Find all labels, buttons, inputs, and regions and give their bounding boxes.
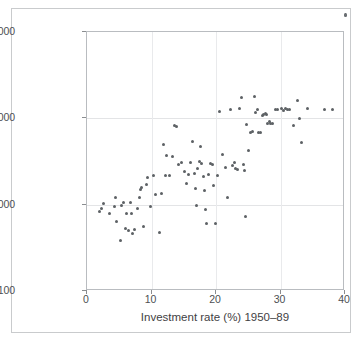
- x-tick-label: 20: [209, 293, 221, 305]
- scatter-point: [168, 174, 171, 177]
- scatter-point: [229, 108, 232, 111]
- scatter-point: [247, 149, 250, 152]
- scatter-point: [218, 110, 221, 113]
- scatter-point: [196, 167, 199, 170]
- scatter-point: [240, 96, 243, 99]
- scatter-point: [306, 107, 309, 110]
- y-tick-mark: [82, 117, 86, 118]
- scatter-point: [243, 169, 246, 172]
- y-axis-title: GDP per capita (log scale) 1989: [22, 0, 38, 47]
- scatter-point: [323, 108, 326, 111]
- scatter-point: [194, 187, 197, 190]
- scatter-point: [226, 196, 229, 199]
- scatter-point: [145, 183, 148, 186]
- x-gridline: [216, 32, 217, 289]
- scatter-point: [265, 113, 268, 116]
- scatter-point: [195, 204, 198, 207]
- scatter-point: [131, 232, 134, 235]
- scatter-point: [231, 164, 234, 167]
- scatter-point: [162, 143, 165, 146]
- y-tick-mark: [82, 204, 86, 205]
- scatter-point: [298, 117, 301, 120]
- scatter-point: [204, 208, 207, 211]
- scatter-point: [251, 130, 254, 133]
- scatter-point: [211, 163, 214, 166]
- scatter-point: [129, 201, 132, 204]
- scatter-point: [253, 95, 256, 98]
- scatter-point: [191, 140, 194, 143]
- scatter-point: [114, 196, 117, 199]
- scatter-point: [300, 141, 303, 144]
- y-tick-label: 100: [0, 284, 15, 296]
- scatter-point: [202, 175, 205, 178]
- scatter-point: [100, 207, 103, 210]
- scatter-point: [254, 111, 257, 114]
- scatter-point: [236, 168, 239, 171]
- scatter-point: [259, 131, 262, 134]
- scatter-point: [203, 189, 206, 192]
- scatter-point: [288, 108, 291, 111]
- scatter-point: [108, 212, 111, 215]
- scatter-point: [238, 107, 241, 110]
- scatter-point: [193, 172, 196, 175]
- scatter-point: [130, 212, 133, 215]
- scatter-point: [149, 205, 152, 208]
- scatter-point: [127, 229, 130, 232]
- scatter-point: [212, 184, 215, 187]
- y-tick-mark: [82, 31, 86, 32]
- x-gridline: [152, 32, 153, 289]
- scatter-point: [165, 154, 168, 157]
- x-tick-label: 10: [145, 293, 157, 305]
- scatter-point: [98, 210, 101, 213]
- scatter-point: [138, 196, 141, 199]
- scatter-point: [233, 161, 236, 164]
- scatter-point: [244, 215, 247, 218]
- y-tick-label: 1,000: [0, 198, 15, 210]
- scatter-point: [224, 166, 227, 169]
- y-gridline: [87, 205, 343, 206]
- scatter-point: [175, 125, 178, 128]
- scatter-point: [292, 124, 295, 127]
- scatter-point: [133, 228, 136, 231]
- scatter-point: [185, 182, 188, 185]
- scatter-point: [331, 108, 334, 111]
- scatter-point: [180, 161, 183, 164]
- scatter-point: [242, 163, 245, 166]
- scatter-point: [276, 108, 279, 111]
- x-tick-label: 40: [338, 293, 350, 305]
- scatter-point: [171, 155, 174, 158]
- x-tick-label: 0: [83, 293, 89, 305]
- scatter-point: [120, 204, 123, 207]
- scatter-point: [221, 153, 224, 156]
- scatter-point: [207, 173, 210, 176]
- scatter-point: [164, 174, 167, 177]
- figure-container: GDP per capita (log scale) 1989 Investme…: [0, 0, 362, 349]
- y-tick-label: 100,000: [0, 25, 15, 37]
- y-tick-label: 10,000: [0, 111, 15, 123]
- scatter-point: [183, 170, 186, 173]
- scatter-point: [154, 193, 157, 196]
- scatter-point: [125, 212, 128, 215]
- scatter-point: [142, 225, 145, 228]
- scatter-point: [136, 207, 139, 210]
- scatter-point: [245, 123, 248, 126]
- scatter-point: [216, 174, 219, 177]
- scatter-point: [271, 122, 274, 125]
- x-tick-label: 30: [274, 293, 286, 305]
- scatter-point: [205, 222, 208, 225]
- x-axis-title: Investment rate (%) 1950–89: [86, 311, 344, 323]
- scatter-point: [115, 220, 118, 223]
- scatter-point: [214, 222, 217, 225]
- scatter-point: [199, 145, 202, 148]
- scatter-point: [113, 205, 116, 208]
- plot-area: [86, 31, 344, 290]
- scatter-point: [296, 99, 299, 102]
- x-gridline: [281, 32, 282, 289]
- scatter-point: [187, 173, 190, 176]
- scatter-point: [200, 162, 203, 165]
- scatter-point: [119, 239, 122, 242]
- scatter-point: [189, 161, 192, 164]
- y-gridline: [87, 118, 343, 119]
- corner-dot-icon: [344, 13, 347, 17]
- scatter-point: [160, 192, 163, 195]
